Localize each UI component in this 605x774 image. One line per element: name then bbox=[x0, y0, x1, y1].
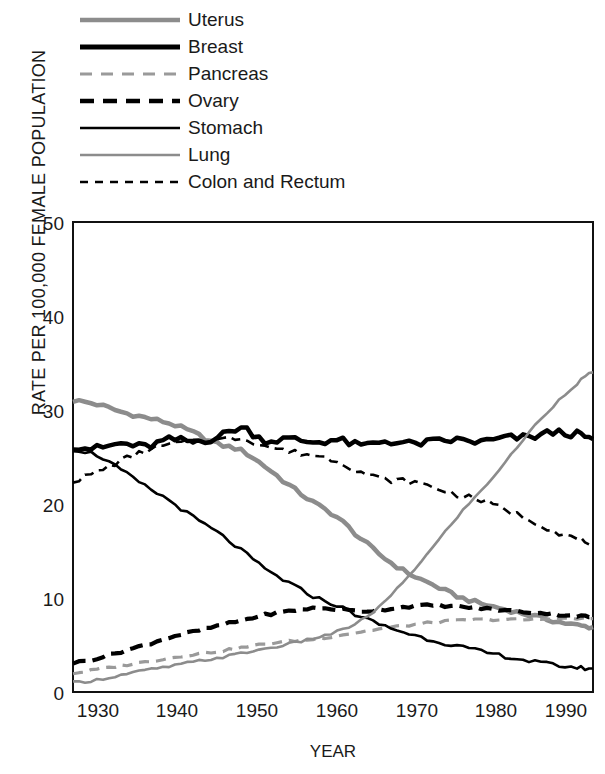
chart-figure: Uterus Breast Pancreas Ovary Stomach bbox=[0, 0, 605, 774]
chart-plot-area bbox=[0, 0, 605, 774]
series-layer bbox=[73, 372, 593, 682]
plot-frame bbox=[73, 222, 593, 692]
series-line-uterus bbox=[73, 400, 593, 628]
series-line-breast bbox=[73, 428, 593, 450]
x-axis-label: YEAR bbox=[73, 742, 593, 762]
series-line-stomach bbox=[73, 451, 593, 670]
